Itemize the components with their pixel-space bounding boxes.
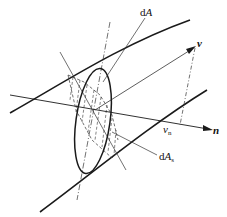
label-dA-var: A <box>146 6 153 18</box>
label-v: v <box>197 38 202 49</box>
label-vn: vn <box>163 124 171 137</box>
label-dA: dA <box>140 7 152 18</box>
label-n: n <box>213 125 219 136</box>
normal-arrowhead-icon <box>203 125 213 131</box>
label-vn-sub: n <box>168 129 172 137</box>
projection-dashed-line <box>180 48 195 125</box>
label-dAs: dAs <box>159 151 174 164</box>
label-dAs-sub: s <box>171 156 174 164</box>
upper-tube-wall <box>10 20 190 113</box>
lower-tube-wall <box>40 90 207 212</box>
section-boundary-upper <box>60 52 126 170</box>
flow-tube-diagram <box>0 0 227 217</box>
normal-axis-line <box>10 95 208 129</box>
